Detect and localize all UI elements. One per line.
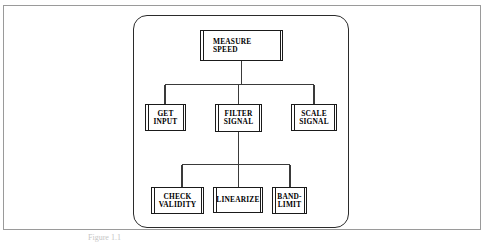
node-get-input-line2: INPUT	[154, 118, 178, 126]
node-check-validity[interactable]: CHECK VALIDITY	[151, 187, 204, 214]
node-filter-signal-line2: SIGNAL	[224, 118, 254, 126]
node-get-input[interactable]: GET INPUT	[145, 104, 186, 131]
node-band-limit-line2: LIMIT	[278, 201, 302, 209]
node-linearize-line1: LINEARIZE	[216, 196, 259, 204]
node-check-validity-line2: VALIDITY	[159, 201, 197, 209]
node-scale-signal-line2: SIGNAL	[299, 118, 329, 126]
node-measure-speed-line2: SPEED	[213, 46, 238, 54]
node-band-limit[interactable]: BAND- LIMIT	[272, 187, 307, 214]
node-linearize[interactable]: LINEARIZE	[213, 187, 263, 213]
node-measure-speed[interactable]: MEASURE SPEED	[200, 30, 283, 61]
node-filter-signal[interactable]: FILTER SIGNAL	[215, 104, 262, 132]
figure-caption: Figure 1.1	[88, 233, 121, 242]
node-scale-signal[interactable]: SCALE SIGNAL	[291, 104, 337, 131]
